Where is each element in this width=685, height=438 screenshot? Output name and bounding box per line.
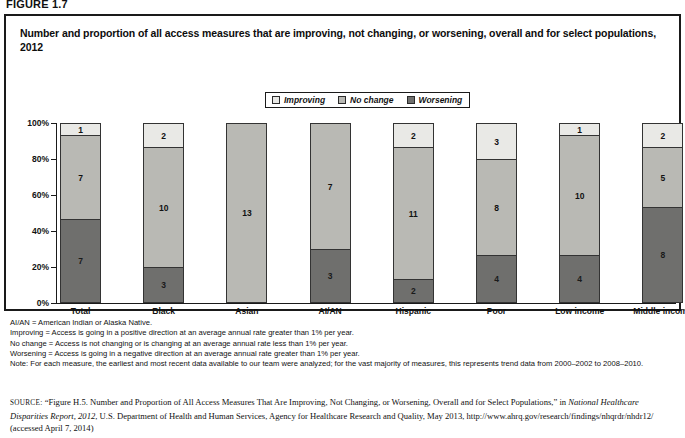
bar-asian[interactable]: 13 [226, 123, 267, 303]
bar-segment-worsening[interactable]: 8 [642, 207, 683, 303]
source-text-part2: , U.S. Department of Health and Human Se… [10, 411, 654, 434]
x-axis-label-ai-an: AI/AN [290, 306, 370, 316]
figure-source: SOURCE: “Figure H.5. Number and Proporti… [10, 396, 675, 435]
bar-segment-no-change[interactable]: 11 [393, 147, 434, 279]
x-axis-label-asian: Asian [207, 306, 287, 316]
x-axis-label-hispanic: Hispanic [373, 306, 453, 316]
x-axis-label-black: Black [124, 306, 204, 316]
bar-poor[interactable]: 384 [476, 123, 517, 303]
bar-segment-improving[interactable]: 2 [143, 123, 184, 147]
figure-panel: Number and proportion of all access meas… [4, 14, 681, 311]
bar-hispanic[interactable]: 2112 [393, 123, 434, 303]
chart-plot-area: 0%20%40%60%80%100% 177210313732112384110… [6, 16, 683, 313]
note-worsening: Worsening = Access is going in a negativ… [10, 349, 672, 359]
bar-low-income[interactable]: 1104 [559, 123, 600, 303]
bar-segment-worsening[interactable]: 4 [476, 255, 517, 303]
bar-ai-an[interactable]: 73 [310, 123, 351, 303]
bar-segment-worsening[interactable]: 2 [393, 279, 434, 303]
x-axis-label-total: Total [41, 306, 121, 316]
figure-notes: AI/AN = American Indian or Alaska Native… [10, 318, 672, 369]
bar-segment-no-change[interactable]: 5 [642, 147, 683, 207]
bar-segment-no-change[interactable]: 8 [476, 159, 517, 255]
x-axis-label-low-income: Low income [540, 306, 620, 316]
bar-segment-worsening[interactable]: 3 [310, 249, 351, 303]
bar-segment-no-change[interactable]: 7 [310, 123, 351, 249]
bar-segment-improving[interactable]: 1 [60, 123, 101, 135]
source-prefix: SOURCE: [10, 399, 42, 407]
bars-layer: 1772103137321123841104258 [6, 16, 683, 313]
bar-segment-worsening[interactable]: 7 [60, 219, 101, 303]
x-axis-label-middle-income: Middle income [623, 306, 685, 316]
bar-segment-improving[interactable]: 3 [476, 123, 517, 159]
bar-total[interactable]: 177 [60, 123, 101, 303]
bar-segment-no-change[interactable]: 13 [226, 123, 267, 303]
bar-segment-worsening[interactable]: 4 [559, 255, 600, 303]
note-methodology: Note: For each measure, the earliest and… [10, 359, 672, 369]
bar-segment-worsening[interactable]: 3 [143, 267, 184, 303]
bar-segment-no-change[interactable]: 10 [559, 135, 600, 255]
bar-segment-improving[interactable]: 2 [642, 123, 683, 147]
x-axis-label-poor: Poor [457, 306, 537, 316]
source-text-part1: “Figure H.5. Number and Proportion of Al… [45, 397, 569, 407]
bar-segment-improving[interactable]: 1 [559, 123, 600, 135]
bar-middle-income[interactable]: 258 [642, 123, 683, 303]
bar-segment-improving[interactable]: 2 [393, 123, 434, 147]
note-no-change: No change = Access is not changing or is… [10, 339, 672, 349]
note-aian: AI/AN = American Indian or Alaska Native… [10, 318, 672, 328]
note-improving: Improving = Access is going in a positiv… [10, 328, 672, 338]
bar-segment-no-change[interactable]: 10 [143, 147, 184, 267]
bar-black[interactable]: 2103 [143, 123, 184, 303]
figure-label: FIGURE 1.7 [6, 0, 68, 10]
bar-segment-no-change[interactable]: 7 [60, 135, 101, 219]
